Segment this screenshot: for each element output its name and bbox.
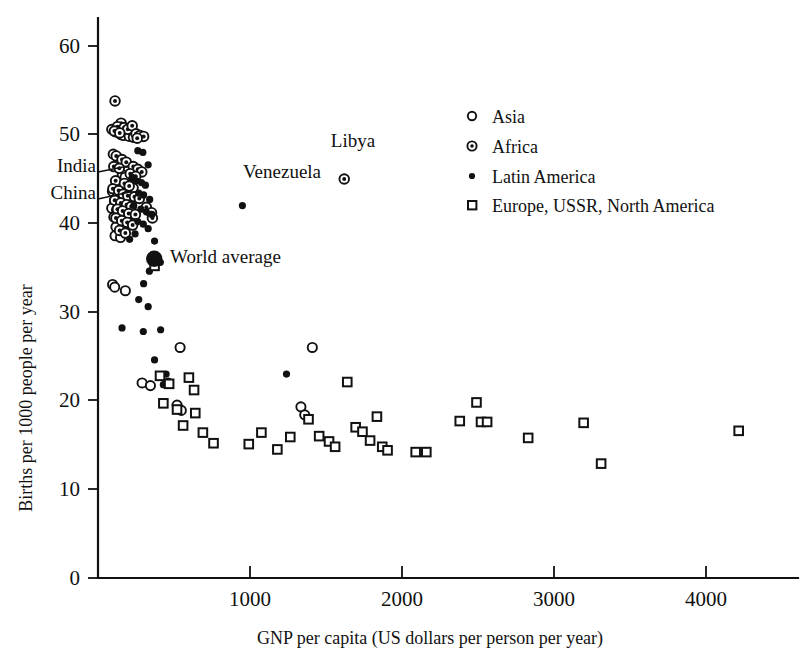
- data-point-filled-dot: [142, 182, 149, 189]
- y-tick-label-40: 40: [59, 211, 80, 235]
- data-point-open-circle: [110, 283, 119, 292]
- data-point-circle-with-dot: [132, 133, 142, 143]
- data-point-open-square: [165, 380, 174, 389]
- data-point-open-square: [159, 399, 168, 408]
- data-point-circle-with-dot: [115, 128, 125, 138]
- y-tick-label-20: 20: [59, 388, 80, 412]
- x-tick-label-1000: 1000: [229, 587, 271, 611]
- data-point-filled-dot: [145, 225, 152, 232]
- data-point-filled-dot: [239, 202, 246, 209]
- data-point-filled-dot: [140, 280, 147, 287]
- axes: [98, 18, 798, 578]
- data-points-layer: [107, 96, 743, 468]
- data-point-open-square: [156, 372, 165, 381]
- x-tick-label-4000: 4000: [685, 587, 727, 611]
- legend-item-europe-ussr-north-america[interactable]: Europe, USSR, North America: [468, 196, 714, 216]
- data-point-open-square: [472, 398, 481, 407]
- y-tick-label-50: 50: [59, 122, 80, 146]
- legend-item-africa[interactable]: Africa: [467, 137, 538, 157]
- data-point-large-filled-circle: [146, 251, 162, 267]
- data-point-open-square: [315, 432, 324, 441]
- data-point-open-square: [185, 373, 194, 382]
- data-point-filled-dot: [126, 236, 133, 243]
- annotation-india: India: [57, 155, 97, 176]
- data-point-filled-dot: [151, 237, 158, 244]
- data-point-filled-dot: [146, 196, 153, 203]
- annotation-libya: Libya: [331, 130, 376, 151]
- data-point-open-square: [179, 421, 188, 430]
- europe-marker-icon: [468, 201, 476, 209]
- legend-label-asia: Asia: [492, 107, 525, 127]
- legend-label-europe: Europe, USSR, North America: [492, 196, 714, 216]
- latin-america-marker-icon: [469, 173, 475, 179]
- data-point-open-square: [190, 386, 199, 395]
- data-point-open-circle: [175, 343, 184, 352]
- data-point-open-square: [524, 434, 533, 443]
- asia-marker-icon: [468, 112, 476, 120]
- data-point-open-square: [304, 415, 313, 424]
- scatter-chart: 0 10 20 30 40 50 60 1000 2000 3000 4000 …: [0, 0, 807, 666]
- data-point-filled-dot: [140, 328, 147, 335]
- data-point-open-square: [244, 440, 253, 449]
- data-point-open-square: [411, 448, 420, 457]
- data-point-open-square: [358, 427, 367, 436]
- data-point-open-square: [455, 417, 464, 426]
- y-axis-ticks: 0 10 20 30 40 50 60: [59, 34, 98, 590]
- legend-item-latin-america[interactable]: Latin America: [469, 167, 596, 187]
- x-axis-ticks: 1000 2000 3000 4000: [229, 566, 727, 611]
- y-tick-label-10: 10: [59, 477, 80, 501]
- data-point-open-square: [199, 428, 208, 437]
- data-point-open-square: [734, 427, 743, 436]
- data-point-open-square: [383, 446, 392, 455]
- legend: Asia Africa Latin America Europe, USSR, …: [467, 107, 714, 216]
- data-point-filled-dot: [130, 202, 137, 209]
- data-point-open-square: [257, 428, 266, 437]
- annotation-venezuela: Venezuela: [243, 161, 322, 182]
- legend-label-latin-america: Latin America: [492, 167, 595, 187]
- data-point-open-square: [579, 419, 588, 428]
- data-point-open-square: [597, 459, 606, 468]
- y-tick-label-0: 0: [70, 566, 81, 590]
- data-point-open-square: [286, 433, 295, 442]
- data-point-filled-dot: [148, 211, 155, 218]
- data-point-open-circle: [308, 343, 317, 352]
- africa-marker-center-dot-icon: [470, 144, 474, 148]
- data-point-open-square: [191, 409, 200, 418]
- annotation-world-average: World average: [170, 246, 281, 267]
- data-point-circle-with-dot: [339, 174, 349, 184]
- data-point-filled-dot: [118, 324, 125, 331]
- data-point-filled-dot: [145, 161, 152, 168]
- data-point-open-square: [343, 378, 352, 387]
- data-point-filled-dot: [283, 370, 290, 377]
- data-point-filled-dot: [140, 191, 147, 198]
- data-point-open-square: [366, 436, 375, 445]
- x-tick-label-2000: 2000: [381, 587, 423, 611]
- data-point-open-square: [209, 439, 218, 448]
- y-tick-label-60: 60: [59, 34, 80, 58]
- data-point-open-square: [273, 445, 282, 454]
- legend-item-asia[interactable]: Asia: [468, 107, 525, 127]
- legend-label-africa: Africa: [492, 137, 538, 157]
- y-tick-label-30: 30: [59, 300, 80, 324]
- annotation-china: China: [51, 182, 97, 203]
- data-point-open-square: [331, 442, 340, 451]
- data-point-open-square: [422, 448, 431, 457]
- data-point-filled-dot: [135, 296, 142, 303]
- data-point-open-square: [373, 412, 382, 421]
- data-point-open-circle: [121, 286, 130, 295]
- data-point-filled-dot: [145, 303, 152, 310]
- data-point-circle-with-dot: [110, 96, 120, 106]
- data-point-filled-dot: [139, 149, 146, 156]
- data-point-open-square: [173, 405, 182, 414]
- x-axis-title: GNP per capita (US dollars per person pe…: [257, 628, 603, 649]
- data-point-filled-dot: [131, 230, 138, 237]
- data-point-open-square: [483, 418, 492, 427]
- x-tick-label-3000: 3000: [533, 587, 575, 611]
- data-point-filled-dot: [157, 326, 164, 333]
- y-axis-title: Births per 1000 people per year: [16, 284, 36, 511]
- data-point-open-circle: [146, 381, 155, 390]
- data-point-filled-dot: [151, 356, 158, 363]
- chart-canvas: 0 10 20 30 40 50 60 1000 2000 3000 4000 …: [0, 0, 807, 666]
